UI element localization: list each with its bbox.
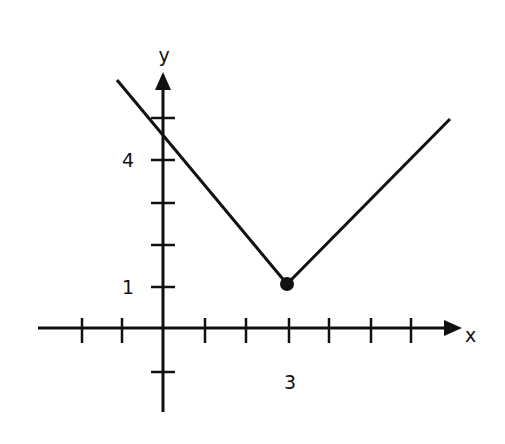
- x-axis-arrow-icon: [444, 320, 462, 336]
- y-tick-label-1: 1: [122, 276, 134, 298]
- function-line: [117, 80, 450, 284]
- y-axis-label: y: [158, 44, 169, 66]
- x-axis-label: x: [465, 324, 476, 346]
- x-tick-label-3: 3: [284, 371, 296, 393]
- y-axis-arrow-icon: [155, 72, 171, 90]
- x-ticks: [82, 318, 411, 343]
- y-tick-label-4: 4: [122, 149, 134, 171]
- vertex-point: [280, 277, 294, 291]
- graph: y x 3 1 4: [0, 0, 505, 444]
